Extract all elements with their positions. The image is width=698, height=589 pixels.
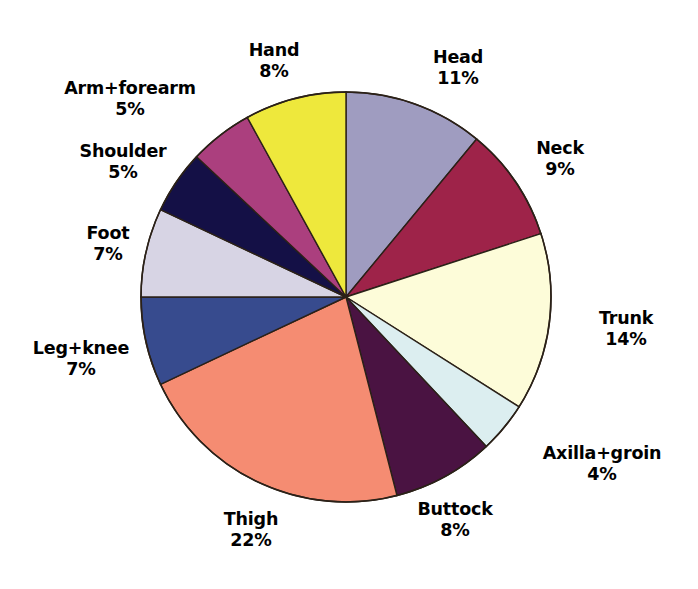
pie-label-leg-knee: Leg+knee 7%	[6, 338, 156, 379]
pie-label-trunk: Trunk 14%	[562, 308, 690, 349]
pie-label-head: Head 11%	[398, 47, 518, 88]
pie-label-thigh: Thigh 22%	[188, 509, 314, 550]
pie-label-thigh-name: Thigh	[188, 509, 314, 530]
pie-label-head-name: Head	[398, 47, 518, 68]
pie-label-neck-value: 9%	[500, 159, 620, 180]
pie-label-foot: Foot 7%	[48, 223, 168, 264]
pie-label-neck: Neck 9%	[500, 138, 620, 179]
pie-slice-group	[141, 92, 551, 502]
pie-label-trunk-name: Trunk	[562, 308, 690, 329]
pie-label-axilla-groin-value: 4%	[514, 464, 690, 485]
pie-label-head-value: 11%	[398, 68, 518, 89]
pie-label-shoulder-name: Shoulder	[48, 141, 198, 162]
pie-label-buttock: Buttock 8%	[388, 499, 522, 540]
pie-chart-page: Hand 8% Head 11% Arm+forearm 5% Neck 9% …	[0, 0, 698, 589]
pie-label-buttock-name: Buttock	[388, 499, 522, 520]
pie-label-shoulder-value: 5%	[48, 162, 198, 183]
pie-label-arm-forearm-name: Arm+forearm	[40, 78, 220, 99]
figure-bottom-margin	[0, 581, 698, 589]
pie-label-arm-forearm-value: 5%	[40, 99, 220, 120]
pie-label-thigh-value: 22%	[188, 530, 314, 551]
pie-label-buttock-value: 8%	[388, 520, 522, 541]
pie-label-leg-knee-name: Leg+knee	[6, 338, 156, 359]
pie-label-trunk-value: 14%	[562, 329, 690, 350]
pie-label-neck-name: Neck	[500, 138, 620, 159]
pie-label-axilla-groin-name: Axilla+groin	[514, 443, 690, 464]
pie-label-leg-knee-value: 7%	[6, 359, 156, 380]
pie-label-foot-value: 7%	[48, 244, 168, 265]
pie-chart-figure: Hand 8% Head 11% Arm+forearm 5% Neck 9% …	[0, 0, 698, 589]
pie-label-foot-name: Foot	[48, 223, 168, 244]
pie-label-hand-value: 8%	[214, 61, 334, 82]
pie-label-axilla-groin: Axilla+groin 4%	[514, 443, 690, 484]
pie-label-hand-name: Hand	[214, 40, 334, 61]
pie-label-arm-forearm: Arm+forearm 5%	[40, 78, 220, 119]
pie-label-hand: Hand 8%	[214, 40, 334, 81]
pie-label-shoulder: Shoulder 5%	[48, 141, 198, 182]
